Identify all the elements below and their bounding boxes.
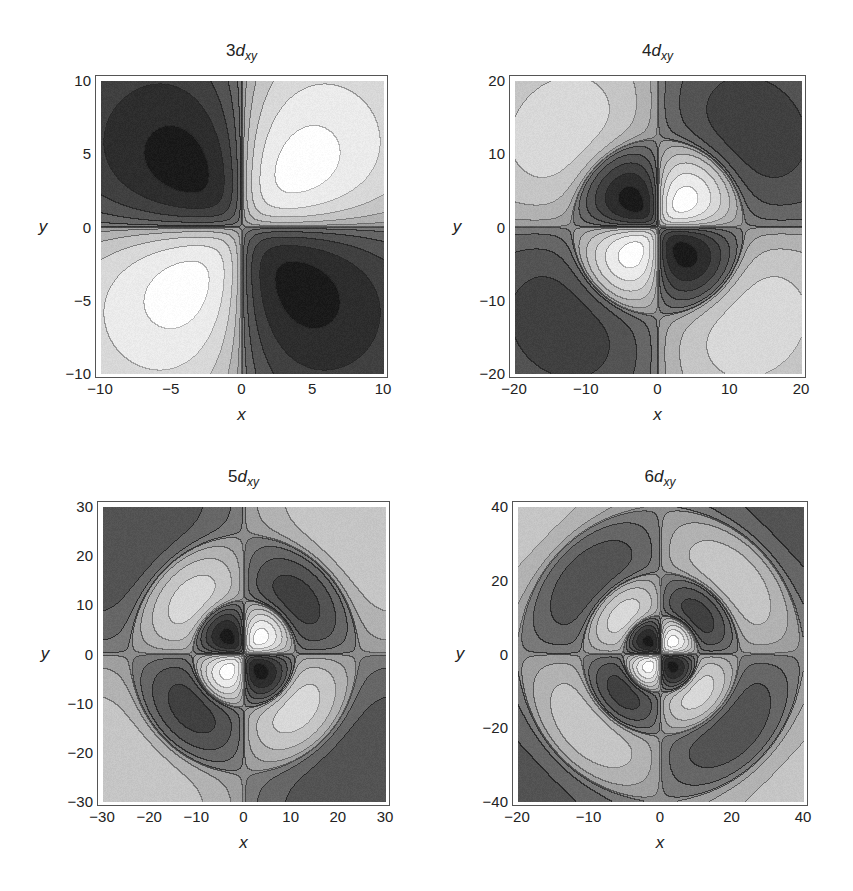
x-tick-label: 0 xyxy=(656,808,664,825)
x-axis-label: x xyxy=(237,405,246,425)
contour-plot xyxy=(515,81,802,374)
panel-title: 4dxy xyxy=(642,41,673,63)
x-tick-label: −20 xyxy=(501,380,526,397)
x-tick-label: −20 xyxy=(136,808,161,825)
x-tick-label: −5 xyxy=(162,380,179,397)
y-tick-label: 20 xyxy=(76,547,93,564)
x-tick-label: 30 xyxy=(377,808,394,825)
contour-plot xyxy=(518,507,804,802)
title-l: d xyxy=(236,41,245,60)
title-l: d xyxy=(238,467,247,486)
panel-title: 6dxy xyxy=(645,467,676,489)
x-tick-label: 5 xyxy=(308,380,316,397)
y-tick-label: 0 xyxy=(83,218,91,235)
x-tick-label: 20 xyxy=(723,808,740,825)
y-axis-label: y xyxy=(453,217,462,237)
y-tick-label: −20 xyxy=(483,719,508,736)
plot-frame xyxy=(512,501,808,806)
y-tick-label: 30 xyxy=(76,498,93,515)
x-tick-label: −20 xyxy=(504,808,529,825)
title-sub: xy xyxy=(663,475,675,489)
panel-title: 5dxy xyxy=(228,467,259,489)
x-axis-label: x xyxy=(239,833,248,853)
y-axis-label: y xyxy=(41,644,50,664)
x-tick-label: −10 xyxy=(573,380,598,397)
x-tick-label: 20 xyxy=(329,808,346,825)
y-tick-label: 20 xyxy=(488,72,505,89)
title-sub: xy xyxy=(245,49,257,63)
y-tick-label: 0 xyxy=(85,645,93,662)
y-tick-label: −20 xyxy=(68,743,93,760)
x-tick-label: 10 xyxy=(282,808,299,825)
y-tick-label: −5 xyxy=(74,291,91,308)
x-tick-label: 10 xyxy=(721,380,738,397)
y-tick-label: −10 xyxy=(66,365,91,382)
y-tick-label: 0 xyxy=(500,645,508,662)
title-l: d xyxy=(652,41,661,60)
x-axis-label: x xyxy=(653,405,662,425)
x-tick-label: −10 xyxy=(87,380,112,397)
y-tick-label: 40 xyxy=(491,498,508,515)
title-sub: xy xyxy=(247,475,259,489)
plot-frame xyxy=(97,501,390,806)
y-axis-label: y xyxy=(39,217,48,237)
x-tick-label: −10 xyxy=(184,808,209,825)
x-tick-label: 10 xyxy=(375,380,392,397)
x-tick-label: 20 xyxy=(793,380,810,397)
x-tick-label: 0 xyxy=(237,380,245,397)
x-tick-label: 0 xyxy=(653,380,661,397)
x-tick-label: 40 xyxy=(795,808,812,825)
x-axis-label: x xyxy=(656,833,665,853)
plot-frame xyxy=(509,75,806,378)
title-sub: xy xyxy=(661,49,673,63)
y-tick-label: −20 xyxy=(480,365,505,382)
title-l: d xyxy=(654,467,663,486)
x-tick-label: −30 xyxy=(89,808,114,825)
y-tick-label: −10 xyxy=(480,291,505,308)
x-tick-label: −10 xyxy=(576,808,601,825)
y-axis-label: y xyxy=(456,644,465,664)
y-tick-label: 10 xyxy=(76,596,93,613)
y-tick-label: 10 xyxy=(74,72,91,89)
plot-frame xyxy=(95,75,388,378)
x-tick-label: 0 xyxy=(239,808,247,825)
y-tick-label: 5 xyxy=(83,145,91,162)
y-tick-label: −40 xyxy=(483,793,508,810)
contour-plot xyxy=(101,81,384,374)
contour-plot xyxy=(103,507,386,802)
y-tick-label: −30 xyxy=(68,793,93,810)
panel-title: 3dxy xyxy=(226,41,257,63)
y-tick-label: 0 xyxy=(497,218,505,235)
y-tick-label: 20 xyxy=(491,571,508,588)
y-tick-label: −10 xyxy=(68,694,93,711)
y-tick-label: 10 xyxy=(488,145,505,162)
